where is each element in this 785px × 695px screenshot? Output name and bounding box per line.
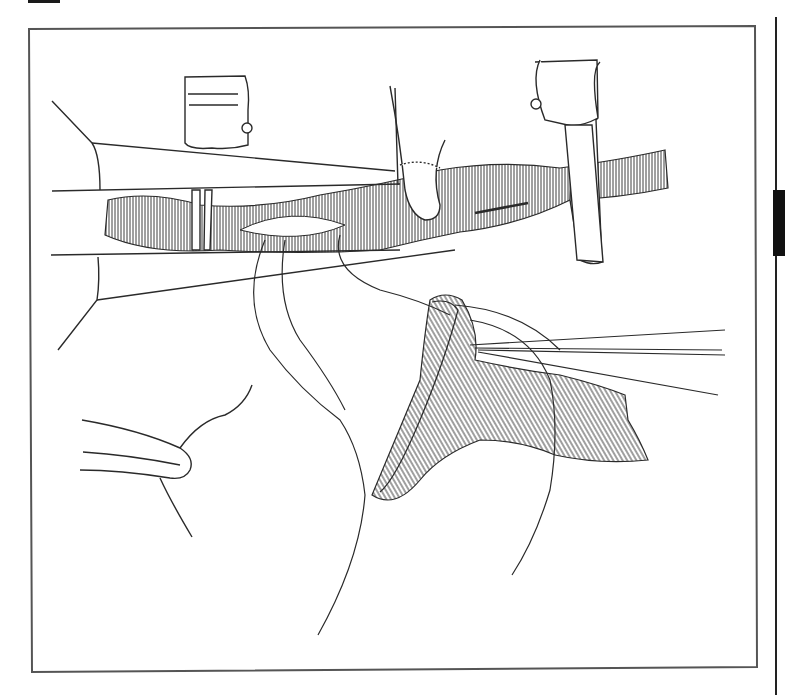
needle-holder: [80, 385, 252, 537]
right-vascular-clamp: [531, 60, 603, 264]
surgical-illustration: [0, 0, 785, 695]
graft-patch: [372, 295, 648, 500]
illustration-frame: [28, 26, 758, 676]
